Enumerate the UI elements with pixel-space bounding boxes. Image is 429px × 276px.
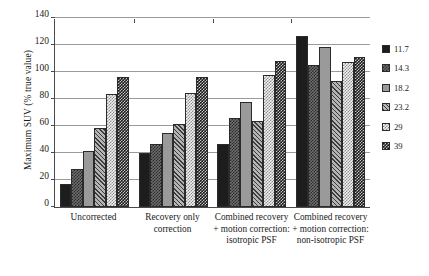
bar [296,36,308,207]
legend-swatch [382,84,390,92]
legend-item: 18.2 [382,83,409,93]
x-tick-mark [213,19,214,23]
y-tick-label: 20 [40,171,50,181]
legend-swatch [382,123,390,131]
y-tick-label: 100 [35,63,49,73]
bar [252,121,264,207]
x-axis-labels: UncorrectedRecovery only correctionCombi… [54,212,370,247]
legend: 11.714.318.223.22939 [382,44,409,151]
legend-label: 29 [394,122,403,132]
legend-item: 39 [382,141,409,151]
x-axis-category-label: Uncorrected [54,212,133,247]
plot-area: 020406080100120140 [54,19,370,208]
legend-label: 11.7 [394,44,409,54]
y-tick-label: 140 [35,9,49,19]
bar [331,81,343,207]
bar [162,133,174,207]
bar [229,118,241,207]
bar-groups [55,19,370,207]
bar [319,47,331,207]
bar-group [213,19,292,207]
x-tick-mark [291,19,292,23]
bar-group [291,19,370,207]
x-axis-category-label: Combined recovery + motion correction: n… [291,212,370,247]
bar [185,93,197,207]
legend-item: 14.3 [382,63,409,73]
legend-swatch [382,103,390,111]
bar [240,102,252,207]
bar [150,144,162,207]
x-axis-category-label: Combined recovery + motion correction: i… [212,212,291,247]
legend-swatch [382,45,390,53]
y-tick-mark [51,17,55,18]
bar-group [134,19,213,207]
bar [60,184,72,207]
y-tick-label: 80 [40,90,50,100]
bar [83,151,95,207]
bar [354,57,366,207]
y-axis-title: Maximum SUV (% true value) [23,20,33,200]
bar [196,77,208,207]
bar [139,153,151,207]
bar [263,75,275,207]
bar [106,94,118,207]
x-axis-category-label: Recovery only correction [133,212,212,247]
legend-label: 23.2 [394,102,409,112]
bar [342,62,354,207]
bar [71,169,83,207]
x-tick-mark [134,19,135,23]
bar [94,128,106,207]
legend-label: 39 [394,141,403,151]
y-tick-label: 120 [35,36,49,46]
y-tick-label: 40 [40,144,50,154]
legend-item: 11.7 [382,44,409,54]
bar [117,77,129,207]
legend-swatch [382,64,390,72]
legend-item: 29 [382,122,409,132]
bar-group [55,19,134,207]
legend-item: 23.2 [382,102,409,112]
legend-label: 14.3 [394,63,409,73]
legend-label: 18.2 [394,83,409,93]
bar [217,144,229,207]
legend-swatch [382,142,390,150]
bar [173,124,185,207]
y-tick-label: 60 [40,117,50,127]
bar-chart-figure: Maximum SUV (% true value) 0204060801001… [0,0,429,276]
y-tick-label: 0 [44,198,49,208]
bar [308,65,320,207]
gridline [55,17,370,18]
bar [275,61,287,207]
